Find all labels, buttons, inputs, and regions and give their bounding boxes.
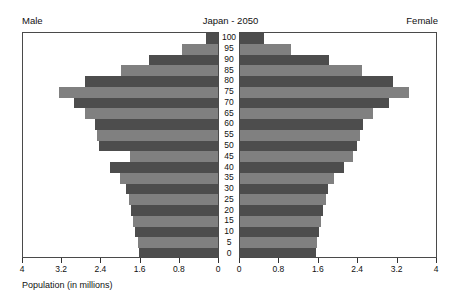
female-bar-age-35	[240, 173, 334, 184]
female-x-tickmark-4	[436, 258, 437, 263]
female-x-tick-labels: 00.81.62.43.24	[239, 264, 437, 276]
age-label-65: 65	[219, 108, 239, 118]
male-bar-age-20	[131, 205, 218, 216]
male-x-tickmark-1.6	[140, 258, 141, 263]
male-x-tickmark-0	[218, 258, 219, 263]
female-bar-age-5	[240, 237, 317, 248]
female-bar-row	[240, 119, 436, 130]
age-label-75: 75	[219, 86, 239, 96]
male-bar-row	[23, 141, 218, 152]
female-x-ticklabel-2.4: 2.4	[351, 264, 363, 275]
male-bars-panel	[22, 32, 219, 258]
female-bar-row	[240, 108, 436, 119]
male-bar-age-25	[129, 194, 218, 205]
age-label-55: 55	[219, 129, 239, 139]
female-bar-age-90	[240, 55, 329, 66]
male-bar-row	[23, 205, 218, 216]
age-label-45: 45	[219, 151, 239, 161]
female-x-ticklabel-4: 4	[434, 264, 439, 275]
female-bar-age-80	[240, 76, 393, 87]
male-bar-row	[23, 108, 218, 119]
female-bars-panel	[239, 32, 437, 258]
female-x-tickmark-3.2	[397, 258, 398, 263]
female-bar-age-60	[240, 119, 363, 130]
male-bar-row	[23, 151, 218, 162]
male-bar-age-85	[121, 65, 219, 76]
female-bar-age-25	[240, 194, 326, 205]
male-bar-age-100	[206, 33, 218, 44]
male-bar-age-40	[110, 162, 218, 173]
male-bar-age-35	[120, 173, 218, 184]
age-label-80: 80	[219, 75, 239, 85]
male-x-ticklabel-3.2: 3.2	[55, 264, 67, 275]
male-bar-row	[23, 248, 218, 258]
age-label-100: 100	[219, 32, 239, 42]
male-bar-row	[23, 162, 218, 173]
male-bar-age-5	[138, 237, 218, 248]
female-bar-row	[240, 184, 436, 195]
male-bar-age-50	[99, 141, 218, 152]
male-bar-age-90	[149, 55, 218, 66]
female-bar-row	[240, 98, 436, 109]
female-bar-age-20	[240, 205, 323, 216]
male-x-ticklabel-4: 4	[20, 264, 25, 275]
male-x-ticklabel-2.4: 2.4	[94, 264, 106, 275]
female-bar-row	[240, 194, 436, 205]
male-bar-row	[23, 216, 218, 227]
female-bar-row	[240, 130, 436, 141]
population-pyramid-chart: Male Japan - 2050 Female 100959085807570…	[0, 0, 461, 299]
male-bar-age-0	[139, 248, 218, 258]
male-bar-age-10	[135, 227, 218, 238]
male-bar-age-75	[59, 87, 218, 98]
male-x-ticklabel-1.6: 1.6	[134, 264, 146, 275]
age-label-35: 35	[219, 172, 239, 182]
female-bar-row	[240, 44, 436, 55]
female-bar-age-50	[240, 141, 357, 152]
age-group-axis: 1009590858075706560555045403530252015105…	[219, 32, 239, 258]
female-x-tickmark-2.4	[357, 258, 358, 263]
male-bar-age-70	[74, 98, 218, 109]
female-bar-age-65	[240, 108, 373, 119]
male-bar-row	[23, 98, 218, 109]
female-bar-age-40	[240, 162, 344, 173]
age-label-15: 15	[219, 215, 239, 225]
male-bar-age-60	[95, 119, 218, 130]
male-bar-age-95	[182, 44, 218, 55]
male-bar-age-45	[130, 151, 218, 162]
age-label-10: 10	[219, 226, 239, 236]
male-bar-age-55	[97, 130, 218, 141]
male-bar-row	[23, 44, 218, 55]
female-x-tickmark-0.8	[278, 258, 279, 263]
female-bar-age-95	[240, 44, 291, 55]
male-bar-row	[23, 237, 218, 248]
female-bar-row	[240, 55, 436, 66]
female-bar-row	[240, 65, 436, 76]
male-x-tick-labels: 43.22.41.60.80	[22, 264, 219, 276]
age-label-95: 95	[219, 43, 239, 53]
female-bar-row	[240, 33, 436, 44]
male-bar-row	[23, 87, 218, 98]
female-x-ticklabel-1.6: 1.6	[312, 264, 324, 275]
female-bar-age-70	[240, 98, 389, 109]
male-x-tickmark-0.8	[179, 258, 180, 263]
age-label-0: 0	[219, 248, 239, 258]
age-label-30: 30	[219, 183, 239, 193]
chart-title: Japan - 2050	[0, 15, 461, 26]
female-x-ticklabel-0.8: 0.8	[272, 264, 284, 275]
male-x-ticklabel-0: 0	[216, 264, 221, 275]
male-x-tickmark-3.2	[61, 258, 62, 263]
female-bar-age-30	[240, 184, 328, 195]
male-bar-row	[23, 65, 218, 76]
male-x-tickmark-4	[22, 258, 23, 263]
female-x-tickmark-1.6	[318, 258, 319, 263]
male-x-ticklabel-0.8: 0.8	[173, 264, 185, 275]
female-bar-row	[240, 216, 436, 227]
age-label-25: 25	[219, 194, 239, 204]
female-bar-row	[240, 141, 436, 152]
male-bar-row	[23, 119, 218, 130]
female-bar-age-45	[240, 151, 353, 162]
male-bar-row	[23, 194, 218, 205]
female-bar-row	[240, 173, 436, 184]
female-bar-row	[240, 205, 436, 216]
age-label-60: 60	[219, 118, 239, 128]
